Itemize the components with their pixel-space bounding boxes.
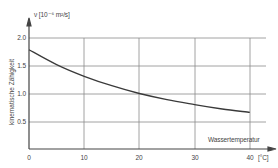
x-tick-30: 30: [187, 155, 203, 162]
x-axis-title: Wassertemperatur: [208, 137, 260, 144]
x-axis-arrow-icon: [268, 147, 276, 151]
y-axis-title: kinematische Zähigkeit: [8, 59, 15, 125]
y-tick-2.0: 2.0: [12, 35, 26, 42]
x-tick-0: 0: [21, 155, 37, 162]
y-axis-arrow-icon: [27, 18, 31, 26]
y-axis-unit-label: ν [10⁻⁶ m²/s]: [34, 12, 70, 19]
x-tick-20: 20: [131, 155, 147, 162]
x-axis-unit: [°C]: [258, 155, 269, 162]
x-tick-40: 40: [242, 155, 258, 162]
gridlines: [29, 38, 266, 149]
x-tick-10: 10: [76, 155, 92, 162]
